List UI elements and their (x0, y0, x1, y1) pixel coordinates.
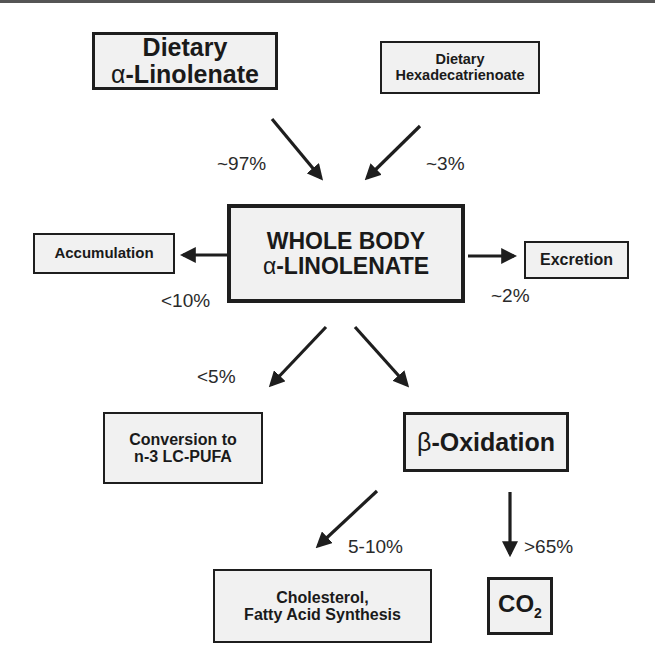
pct-body-to-accumulation: <10% (161, 290, 210, 312)
arrow-ala-to-body (272, 119, 321, 178)
flow-arrows (0, 0, 655, 666)
pct-hexa-to-body: ~3% (426, 153, 465, 175)
arrow-body-to-conversion (271, 327, 326, 385)
pct-betaox-to-co2: >65% (524, 536, 573, 558)
pct-body-to-conversion: <5% (197, 366, 236, 388)
pct-body-to-excretion: ~2% (491, 285, 530, 307)
arrow-hexa-to-body (367, 126, 420, 178)
pct-betaox-to-cholesterol: 5-10% (348, 536, 403, 558)
arrow-body-to-betaox (355, 327, 407, 385)
pct-ala-to-body: ~97% (217, 153, 266, 175)
